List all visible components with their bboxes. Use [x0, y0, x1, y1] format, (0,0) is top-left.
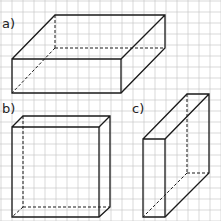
- grid-and-boxes: [0, 0, 221, 221]
- box-a: [12, 15, 165, 93]
- label-a: a): [2, 17, 15, 30]
- label-b: b): [2, 102, 15, 115]
- box-b: [12, 116, 110, 217]
- label-c: c): [132, 102, 144, 115]
- diagram-canvas: a) b) c): [0, 0, 221, 221]
